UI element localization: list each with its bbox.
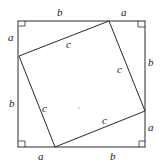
- right-angle-marker-bottom-right: [139, 141, 145, 147]
- label-left-b: b: [9, 97, 15, 109]
- label-top-a: a: [121, 6, 127, 18]
- right-angle-marker-bottom-left: [19, 141, 25, 147]
- right-angle-marker-top-left: [19, 21, 25, 26]
- label-right-a: a: [148, 121, 154, 133]
- label-bottom-b: b: [110, 150, 116, 162]
- inner-square: [19, 21, 145, 147]
- label-c-left: c: [42, 102, 47, 114]
- label-c-top: c: [66, 38, 71, 50]
- label-right-b: b: [148, 56, 154, 68]
- outer-square: [18, 21, 145, 147]
- label-top-b: b: [57, 6, 63, 18]
- label-left-a: a: [8, 31, 14, 43]
- center-dot: [78, 107, 79, 108]
- label-c-bottom: c: [102, 114, 107, 126]
- label-bottom-a: a: [38, 150, 44, 162]
- right-angle-marker-top-right: [138, 21, 145, 27]
- label-c-right: c: [117, 63, 122, 75]
- pythagorean-diagram: b a a b b a a b c c c c: [0, 0, 163, 167]
